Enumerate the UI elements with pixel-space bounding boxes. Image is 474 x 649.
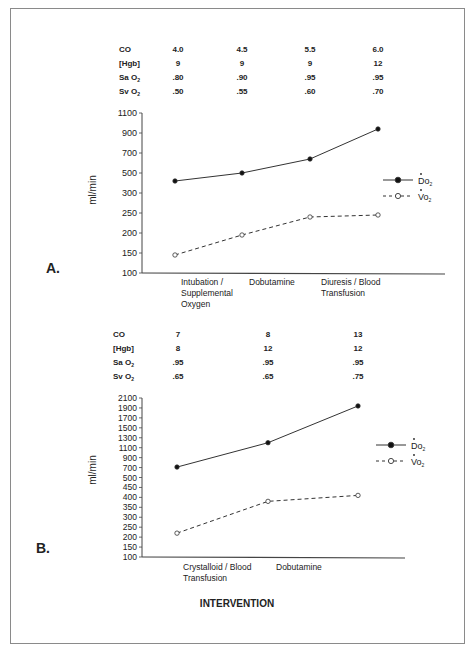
table-cell: 8 [176,344,181,353]
y-tick-label: 350 [123,502,137,512]
table-cell: .95 [352,358,364,367]
table-row-label: CO [119,45,131,54]
table-cell: .95 [172,358,184,367]
table-cell: 13 [354,330,363,339]
do2-point [376,127,380,131]
dot-accent-icon [413,454,415,456]
y-tick-label: 500 [123,473,137,483]
table-cell: 4.5 [236,45,248,54]
y-axis-label: ml/min [87,175,98,204]
table-cell: 4.0 [172,45,184,54]
table-cell: 6.0 [372,45,384,54]
vo2-line [175,215,378,255]
table-cell: 12 [374,59,383,68]
legend-label: Do2 [411,441,426,452]
legend: Do2Vo2 [383,173,433,203]
dot-accent-icon [420,173,422,175]
x-category-label: Crystalloid / Blood [183,562,252,572]
x-category-label: Oxygen [181,299,211,309]
y-tick-label: 200 [122,228,137,238]
y-tick-label: 1100 [119,443,138,453]
y-tick-label: 1100 [118,108,137,118]
do2-point [266,441,270,445]
x-axis [142,557,405,558]
do2-point [240,171,244,175]
do2-line [175,129,378,181]
vo2-point [240,233,244,237]
legend-vo2-marker [395,193,400,198]
vo2-point [173,253,177,257]
vo2-point [175,531,179,535]
y-tick-label: 300 [123,512,137,522]
do2-point [175,465,179,469]
panel-b: CO7813[Hgb]81212Sa O2.95.95.95Sv O2.65.6… [36,330,426,583]
table-row-label: Sa O2 [119,73,140,83]
table-row-label: Sv O2 [119,87,140,97]
x-category-label: Dobutamine [276,562,322,572]
y-tick-label: 900 [123,453,137,463]
y-tick-label: 150 [122,248,137,258]
y-tick-label: 150 [123,542,137,552]
table-cell: 12 [354,344,363,353]
vo2-point [376,213,380,217]
legend: Do2Vo2 [376,438,426,468]
table-cell: .75 [352,372,364,381]
vo2-point [266,499,270,503]
table-cell: .70 [372,87,384,96]
dot-accent-icon [413,438,415,440]
legend-vo2-marker [388,458,393,463]
table-cell: .80 [172,73,184,82]
legend-do2-marker [388,442,394,448]
table-row-label: CO [113,330,125,339]
panel-a: CO4.04.55.56.0[Hgb]99912Sa O2.80.90.95.9… [46,45,445,309]
do2-point [356,404,360,408]
y-tick-label: 300 [122,188,137,198]
table-cell: 9 [176,59,181,68]
y-tick-label: 100 [123,552,137,562]
x-axis-title: INTERVENTION [200,598,274,609]
table-cell: .60 [304,87,316,96]
y-tick-label: 250 [122,208,137,218]
do2-line [177,406,358,467]
table-cell: 9 [240,59,245,68]
table-cell: .50 [172,87,184,96]
y-tick-label: 1300 [118,433,137,443]
x-category-label: Intubation / [181,277,224,287]
panel-label: B. [36,540,50,556]
y-tick-label: 1900 [118,403,137,413]
table-row-label: [Hgb] [119,59,140,68]
vo2-point [356,493,360,497]
legend-label: Vo2 [418,192,432,203]
table-row-label: [Hgb] [113,344,134,353]
table-row-label: Sa O2 [113,358,134,368]
x-category-label: Supplemental [181,288,233,298]
y-tick-label: 1500 [118,423,137,433]
y-tick-label: 400 [123,492,137,502]
table-row-label: Sv O2 [113,372,134,382]
y-tick-label: 250 [123,522,137,532]
y-tick-label: 100 [122,268,137,278]
do2-point [308,157,312,161]
panel-label: A. [46,260,60,276]
legend-do2-marker [395,177,401,183]
table-cell: .95 [304,73,316,82]
y-tick-label: 200 [123,532,137,542]
figure-canvas: CO4.04.55.56.0[Hgb]99912Sa O2.80.90.95.9… [0,0,474,649]
x-axis [142,273,445,274]
table-cell: .55 [236,87,248,96]
table-cell: .95 [372,73,384,82]
table-cell: .95 [262,358,274,367]
parameter-table: CO4.04.55.56.0[Hgb]99912Sa O2.80.90.95.9… [119,45,384,97]
dot-accent-icon [420,189,422,191]
table-cell: 9 [308,59,313,68]
x-category-label: Dobutamine [249,277,295,287]
table-cell: .65 [262,372,274,381]
y-tick-label: 700 [123,463,137,473]
table-cell: 5.5 [304,45,316,54]
table-cell: .65 [172,372,184,381]
y-axis-label: ml/min [87,455,98,484]
y-tick-label: 500 [122,168,137,178]
y-tick-label: 900 [122,128,137,138]
parameter-table: CO7813[Hgb]81212Sa O2.95.95.95Sv O2.65.6… [113,330,364,382]
table-cell: .90 [236,73,248,82]
